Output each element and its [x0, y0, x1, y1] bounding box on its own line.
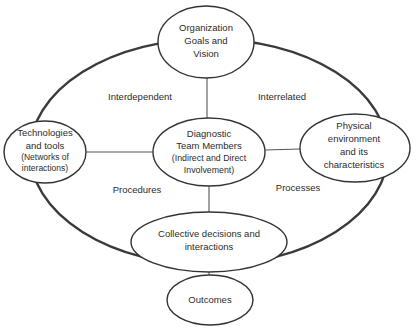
node-diagnostic-team-line-2: Team Members — [176, 140, 242, 151]
node-physical-environment-line-4: characteristics — [324, 159, 385, 170]
label-interdependent: Interdependent — [108, 91, 172, 102]
node-technologies-tools-line-1: Technologies — [17, 127, 73, 138]
node-physical-environment-line-1: Physical — [336, 120, 371, 131]
node-organization-goals-line-3: Vision — [193, 48, 219, 59]
node-physical-environment: Physical environment and its characteris… — [300, 114, 410, 182]
node-organization-goals-line-1: Organization — [179, 22, 233, 33]
node-collective-decisions: Collective decisions and interactions — [131, 212, 287, 272]
node-outcomes-line-1: Outcomes — [188, 294, 232, 305]
node-diagnostic-team-line-4: Involvement) — [184, 165, 234, 175]
node-diagnostic-team-line-1: Diagnostic — [187, 128, 232, 139]
label-interrelated: Interrelated — [258, 91, 306, 102]
node-collective-decisions-line-2: interactions — [185, 241, 234, 252]
node-technologies-tools-line-2: and tools — [26, 140, 65, 151]
framework-diagram: Organization Goals and Vision Technologi… — [0, 0, 417, 331]
node-diagnostic-team-line-3: (Indirect and Direct — [172, 153, 247, 163]
node-organization-goals: Organization Goals and Vision — [158, 6, 254, 78]
node-outcomes: Outcomes — [167, 275, 253, 325]
node-technologies-tools-line-4: interactions) — [22, 163, 68, 173]
label-processes: Processes — [276, 182, 321, 193]
connector-center-right — [265, 149, 300, 150]
node-physical-environment-line-3: and its — [340, 146, 368, 157]
node-technologies-tools-line-3: (Networks of — [21, 152, 69, 162]
label-procedures: Procedures — [113, 184, 162, 195]
node-organization-goals-line-2: Goals and — [184, 35, 227, 46]
node-technologies-tools: Technologies and tools (Networks of inte… — [4, 121, 86, 183]
node-physical-environment-line-2: environment — [328, 133, 381, 144]
node-diagnostic-team: Diagnostic Team Members (Indirect and Di… — [153, 118, 265, 186]
node-collective-decisions-line-1: Collective decisions and — [158, 228, 260, 239]
